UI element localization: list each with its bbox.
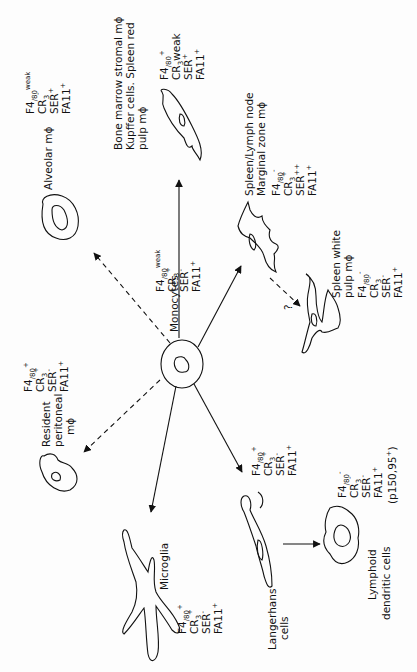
svg-text:SER-: SER-	[45, 368, 58, 392]
microglia-label: Microglia	[158, 543, 170, 590]
marginal-zone-macrophage-cell	[238, 202, 278, 272]
svg-text:FA11+: FA11+	[57, 360, 70, 392]
svg-text:FA11+: FA11+	[211, 602, 224, 634]
lymphoid-dendritic-cell	[324, 506, 359, 563]
alveolar-markers: F4/80weak CR3- SER+ FA11+	[24, 71, 72, 114]
svg-text:cells: cells	[278, 616, 290, 640]
peritoneal-macrophage-cell	[40, 454, 77, 491]
svg-text:Resident: Resident	[40, 401, 52, 447]
white-pulp-markers: F4/80- CR3- SER- FA11+	[356, 266, 404, 298]
peritoneal-markers: F4/80+ CR3+ SER- FA11+	[22, 360, 70, 392]
svg-text:SER-: SER-	[177, 268, 190, 292]
svg-text:Spleen/Lymph node: Spleen/Lymph node	[243, 92, 255, 196]
svg-text:Marginal zone mϕ: Marginal zone mϕ	[255, 102, 267, 196]
svg-text:FA11+: FA11+	[285, 444, 298, 476]
peritoneal-label: Resident peritoneal mϕ	[40, 394, 76, 447]
arrow-to-marginal-zone	[198, 266, 241, 347]
svg-text:SER+: SER+	[47, 87, 60, 114]
arrow-to-langerhans	[194, 384, 242, 472]
monocyte-lineage-diagram: Monocytes F4/80weak CR3+ SER- FA11+ Alve…	[0, 0, 417, 672]
arrow-to-white-pulp	[270, 278, 300, 306]
svg-text:peritoneal: peritoneal	[52, 394, 64, 447]
svg-text:FA11+: FA11+	[189, 260, 202, 292]
svg-text:pulp mϕ: pulp mϕ	[136, 107, 148, 150]
langerhans-label: Langerhans cells	[266, 589, 290, 650]
svg-text:FA11+: FA11+	[391, 266, 404, 298]
bone-marrow-macrophage-cell	[161, 89, 201, 160]
svg-text:FA11+: FA11+	[193, 48, 206, 80]
marginal-zone-markers: F4/80- CR3+ SER++ FA11+	[270, 164, 318, 196]
diagram-canvas: Monocytes F4/80weak CR3+ SER- FA11+ Alve…	[0, 0, 417, 672]
svg-text:Bone marrow stromal mϕ: Bone marrow stromal mϕ	[112, 16, 124, 150]
svg-text:SER-: SER-	[273, 452, 286, 476]
microglia-cell	[123, 530, 180, 661]
monocytes-markers: F4/80weak CR3+ SER- FA11+	[154, 249, 202, 292]
lymphoid-dc-markers: F4/80- CR3- SER- FA11+ (p150,95+)	[336, 447, 398, 505]
bone-marrow-label: Bone marrow stromal mϕ Kupffer cells. Sp…	[112, 16, 148, 150]
svg-text:dendritic cells: dendritic cells	[380, 547, 392, 620]
svg-text:SER-: SER-	[379, 274, 392, 298]
svg-text:FA11+: FA11+	[371, 466, 384, 498]
svg-text:(p150,95+): (p150,95+)	[385, 447, 398, 505]
uncertain-link-mark: ?	[282, 304, 294, 310]
langerhans-cell	[241, 492, 272, 587]
svg-text:Lymphoid: Lymphoid	[366, 549, 378, 600]
microglia-markers: F4/80+ CR3+ SER- FA11+	[176, 602, 224, 634]
monocyte-cell	[161, 340, 203, 388]
marginal-zone-label: Spleen/Lymph node Marginal zone mϕ	[243, 92, 267, 196]
svg-text:Langerhans: Langerhans	[266, 589, 278, 650]
arrow-to-peritoneal	[84, 380, 160, 452]
svg-text:FA11+: FA11+	[305, 164, 318, 196]
svg-text:FA11+: FA11+	[59, 82, 72, 114]
alveolar-macrophage-cell	[42, 195, 78, 240]
langerhans-markers: F4/80+ CR3+ SER- FA11+	[250, 444, 298, 476]
svg-text:Kupffer cells. Spleen red: Kupffer cells. Spleen red	[124, 22, 136, 150]
arrow-to-microglia	[151, 386, 176, 512]
alveolar-label: Alveolar mϕ	[42, 127, 54, 190]
svg-text:pulp mϕ: pulp mϕ	[342, 255, 354, 298]
svg-text:SER+: SER+	[181, 53, 194, 80]
bone-marrow-markers: F4/80+ CR3weak SER+ FA11+	[158, 32, 206, 80]
white-pulp-label: Spleen white pulp mϕ	[330, 230, 354, 298]
svg-text:SER-: SER-	[199, 610, 212, 634]
svg-text:mϕ: mϕ	[64, 418, 76, 435]
lymphoid-dc-label: Lymphoid dendritic cells	[366, 547, 392, 620]
svg-text:SER-: SER-	[359, 474, 372, 498]
svg-text:Spleen white: Spleen white	[330, 230, 342, 298]
